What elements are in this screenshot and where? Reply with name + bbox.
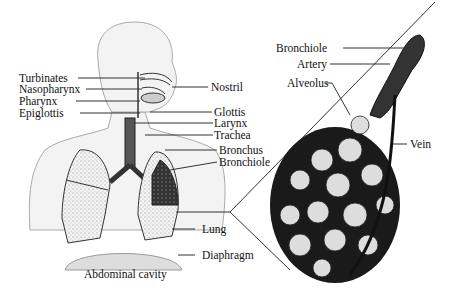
label-detail-vein: Vein [410,138,431,150]
label-bronchiole: Bronchiole [219,156,270,168]
label-larynx: Larynx [214,117,247,129]
label-diaphragm: Diaphragm [202,249,254,261]
label-lung: Lung [202,223,226,235]
label-detail-artery: Artery [297,58,327,70]
label-bronchus: Bronchus [219,144,263,156]
label-trachea: Trachea [214,129,251,141]
label-nostril: Nostril [211,81,243,93]
label-pharynx: Pharynx [19,95,57,107]
label-detail-alveolus: Alveolus [287,77,329,89]
alveoli-cluster [270,35,424,283]
label-abdominal-cavity: Abdominal cavity [84,268,167,280]
label-detail-bronchiole: Bronchiole [276,42,327,54]
label-epiglottis: Epiglottis [19,107,64,119]
trachea-shape [125,118,135,168]
label-nasopharynx: Nasopharynx [19,83,80,95]
